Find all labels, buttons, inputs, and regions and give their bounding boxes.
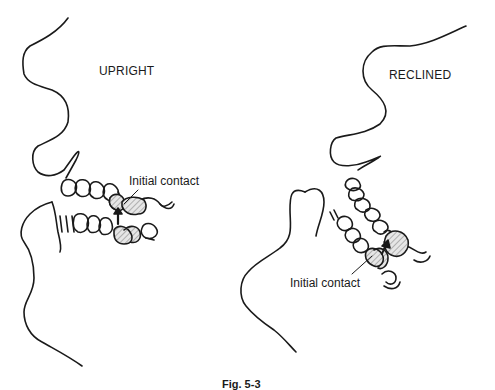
figure-caption: Fig. 5-3 <box>222 378 261 390</box>
reclined-face-profile <box>330 26 466 170</box>
reclined-mandible <box>241 190 305 352</box>
upright-upper-contact-tooth-2 <box>122 197 146 214</box>
upright-lower-contact-tooth <box>114 226 140 244</box>
upright-lower-teeth <box>60 214 157 240</box>
upright-initial-contact-label: Initial contact <box>129 174 199 188</box>
upright-face-profile <box>23 18 79 178</box>
reclined-annotation-leader <box>352 256 372 274</box>
upright-title: UPRIGHT <box>99 64 154 78</box>
reclined-title: RECLINED <box>389 68 451 82</box>
reclined-initial-contact-label: Initial contact <box>290 276 360 290</box>
